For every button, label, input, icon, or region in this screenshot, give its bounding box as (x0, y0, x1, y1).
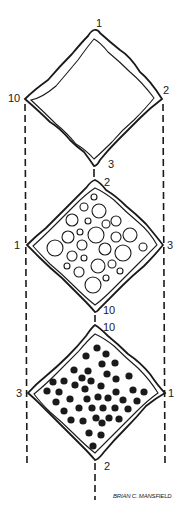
circle (108, 260, 116, 268)
circle (81, 255, 87, 261)
circle (67, 251, 77, 261)
dot (140, 388, 147, 395)
circle (91, 194, 97, 200)
filled-dots (43, 344, 147, 449)
label-d3-left: 3 (16, 387, 22, 399)
dot (98, 360, 105, 367)
connectors (94, 169, 95, 322)
dot (111, 359, 118, 366)
dot (43, 387, 50, 394)
right-dashed-line (163, 104, 165, 465)
label-d1-left: 10 (8, 92, 20, 104)
dot (66, 395, 73, 402)
dashed-guides (25, 104, 165, 500)
dot (111, 404, 118, 411)
label-d1-bottom: 3 (108, 158, 114, 170)
dot (99, 404, 106, 411)
circle (64, 263, 70, 269)
dot (81, 385, 88, 392)
circle (111, 232, 121, 242)
diamond-inner-outline (31, 39, 154, 159)
dot (55, 388, 62, 395)
dot (71, 381, 78, 388)
label-d2-bottom: 10 (103, 304, 115, 316)
dot (125, 372, 132, 379)
circle (139, 243, 147, 251)
dot (79, 417, 86, 424)
dot (70, 366, 77, 373)
circle (74, 267, 84, 277)
dot (60, 407, 67, 414)
dot (93, 344, 100, 351)
circle (85, 277, 101, 293)
label-d3-top: 10 (103, 321, 115, 333)
dot (119, 396, 126, 403)
dot (75, 404, 82, 411)
circle (47, 240, 63, 256)
circle (123, 228, 137, 242)
circle (102, 220, 110, 228)
dot (67, 416, 74, 423)
diamond-filled-dots (28, 325, 165, 460)
dot (133, 397, 140, 404)
dot (103, 370, 110, 377)
label-d3-bottom: 2 (104, 460, 110, 472)
diamond-empty (25, 30, 162, 166)
diamond-outer-outline (25, 30, 162, 166)
dot (105, 414, 112, 421)
dot (94, 393, 101, 400)
dot (112, 375, 119, 382)
dot (112, 388, 119, 395)
circle (77, 229, 83, 235)
dot (60, 377, 67, 384)
circle (115, 245, 131, 261)
dot (83, 395, 90, 402)
dot (115, 415, 122, 422)
label-d2-right: 3 (167, 239, 173, 251)
dot (97, 431, 104, 438)
mosaic-diagram: 1 10 2 3 2 1 3 10 10 3 1 2 BRIAN C. MANS… (0, 0, 188, 520)
label-d3-right: 1 (168, 387, 174, 399)
dot (84, 367, 91, 374)
dot (85, 429, 92, 436)
label-d2-left: 1 (14, 239, 20, 251)
circle (77, 240, 87, 250)
circle (117, 268, 123, 274)
circle (88, 227, 104, 243)
left-dashed-line (25, 104, 27, 465)
dot (87, 377, 94, 384)
label-d1-top: 1 (96, 17, 102, 29)
circle (91, 259, 105, 273)
circle (103, 275, 109, 281)
dot (97, 382, 104, 389)
dot (49, 378, 56, 385)
label-d2-top: 2 (104, 176, 110, 188)
circle (66, 214, 78, 226)
circle (80, 203, 88, 211)
circle (92, 204, 106, 218)
dot (78, 374, 85, 381)
dot (104, 394, 111, 401)
diamond-inner-outline (34, 334, 158, 453)
circle (62, 231, 74, 243)
dot (124, 405, 131, 412)
dot (102, 350, 109, 357)
diamond-open-circles (27, 180, 163, 312)
artist-credit: BRIAN C. MANSFIELD (113, 493, 172, 499)
dot (88, 404, 95, 411)
circle (85, 218, 91, 224)
dot (52, 398, 59, 405)
circle (99, 243, 111, 255)
dot (89, 442, 96, 449)
dot (98, 419, 105, 426)
dot (129, 386, 136, 393)
dot (82, 352, 89, 359)
label-d1-right: 2 (163, 84, 169, 96)
circle (111, 216, 121, 226)
dot (92, 414, 99, 421)
